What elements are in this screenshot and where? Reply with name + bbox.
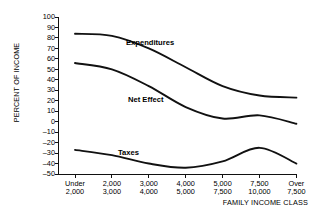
series-label-net-effect: Net Effect [128, 95, 163, 104]
series-label-taxes: Taxes [118, 148, 139, 157]
series-label-expenditures: Expenditures [126, 38, 174, 47]
series-line-net-effect [75, 63, 296, 124]
series-line-taxes [75, 148, 296, 168]
series-lines [75, 34, 296, 168]
x-axis-title: FAMILY INCOME CLASS [223, 198, 308, 207]
x-tick-label: Over7,500 [274, 180, 318, 197]
y-axis-ticks [55, 17, 59, 174]
chart-container: PERCENT OF INCOME 1009080706050403020100… [0, 0, 318, 214]
series-line-expenditures [75, 34, 296, 98]
x-axis-ticks [75, 174, 296, 178]
x-tick-label-line2: 7,500 [274, 188, 318, 196]
